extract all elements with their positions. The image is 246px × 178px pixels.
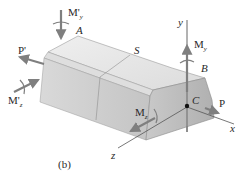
label-a: A — [75, 24, 83, 36]
figure-caption: (b) — [58, 158, 71, 171]
label-b: B — [201, 62, 208, 74]
label-y-axis: y — [177, 16, 183, 28]
label-p-prime: P' — [18, 44, 26, 56]
label-mz-prime: M'z — [8, 94, 23, 109]
label-my-prime: M'y — [68, 6, 84, 21]
label-c: C — [192, 94, 200, 106]
label-my: My — [194, 38, 208, 53]
label-p: P — [219, 97, 225, 109]
beam-diagram: M'y A P' M'z S y My B C P x Mz z (b) — [0, 0, 246, 178]
centroid-point-c — [185, 104, 189, 108]
label-x-axis: x — [229, 122, 235, 134]
label-z-axis: z — [110, 149, 116, 161]
label-s: S — [134, 44, 140, 56]
force-p-prime-arrow — [20, 57, 44, 64]
moment-mz-prime-arrow — [14, 80, 38, 92]
